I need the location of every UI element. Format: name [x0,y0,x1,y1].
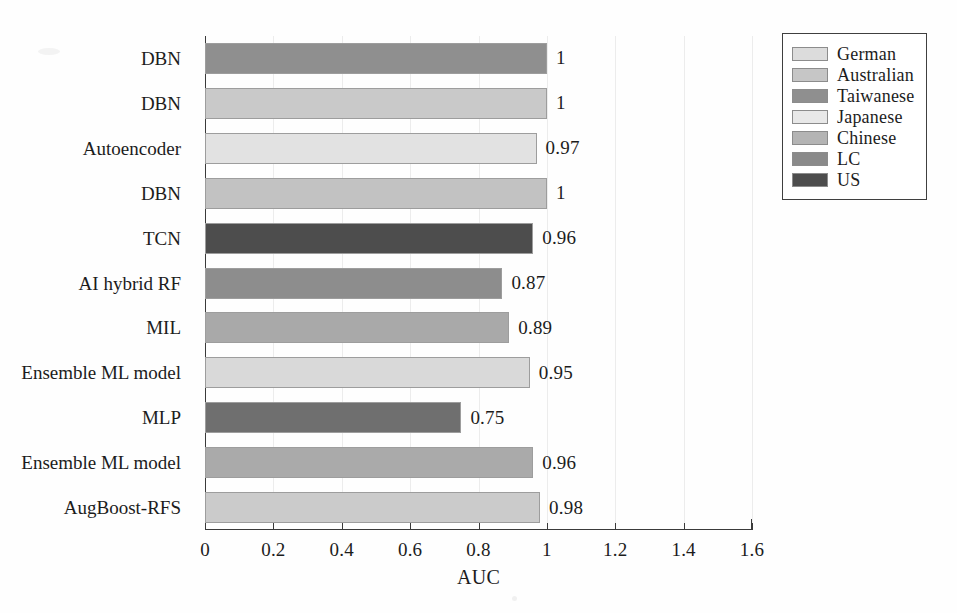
chart-figure: DBNDBNAutoencoderDBNTCNAI hybrid RFMILEn… [0,0,957,613]
bar[interactable] [205,492,540,523]
x-tick-label: 1 [542,539,552,561]
bar-row[interactable]: 0.96 [205,447,752,478]
x-tick [205,523,206,530]
legend-item[interactable]: Australian [792,64,915,85]
bar-value-label: 0.98 [549,497,583,519]
chart-legend: GermanAustralianTaiwaneseJapaneseChinese… [782,33,927,200]
bar[interactable] [205,268,502,299]
bar-row[interactable]: 0.87 [205,268,752,299]
bar-value-label: 0.89 [518,317,552,339]
y-axis-label: Autoencoder [83,133,193,164]
bar[interactable] [205,178,547,209]
bar[interactable] [205,223,533,254]
legend-item[interactable]: German [792,43,915,64]
x-tick [547,523,548,530]
legend-label: LC [837,150,860,168]
x-tick-label: 1.4 [671,539,695,561]
scan-artifact [512,596,517,601]
legend-label: Chinese [837,129,896,147]
legend-item[interactable]: Chinese [792,127,915,148]
legend-swatch [792,152,828,166]
y-axis-label: DBN [141,178,193,209]
legend-item[interactable]: US [792,169,915,190]
legend-item[interactable]: Japanese [792,106,915,127]
legend-item[interactable]: Taiwanese [792,85,915,106]
y-axis-label: MLP [142,402,193,433]
y-axis-label: MIL [146,312,193,343]
x-tick-label: 0.8 [466,539,490,561]
bar-value-label: 0.96 [542,452,576,474]
legend-swatch [792,47,828,61]
x-tick-label: 1.2 [603,539,627,561]
bar-value-label: 0.95 [539,362,573,384]
x-tick-label: 0.2 [261,539,285,561]
legend-label: Australian [837,66,914,84]
bar-row[interactable]: 1 [205,43,752,74]
plot-area: 110.9710.960.870.890.950.750.960.98 00.2… [205,36,752,530]
bar[interactable] [205,312,509,343]
x-tick-label: 0 [200,539,210,561]
bar-value-label: 1 [556,92,566,114]
legend-swatch [792,173,828,187]
bar[interactable] [205,447,533,478]
legend-swatch [792,89,828,103]
bar-row[interactable]: 0.96 [205,223,752,254]
x-tick [410,523,411,530]
bar[interactable] [205,357,530,388]
y-axis-label: Ensemble ML model [21,447,193,478]
x-tick-label: 0.6 [398,539,422,561]
x-tick [342,523,343,530]
bar-row[interactable]: 1 [205,88,752,119]
x-tick [615,523,616,530]
y-axis-label: TCN [143,223,193,254]
gridline [752,36,753,530]
x-tick [684,523,685,530]
bar-value-label: 0.96 [542,227,576,249]
y-axis-label: DBN [141,43,193,74]
y-axis-label: DBN [141,88,193,119]
bar[interactable] [205,43,547,74]
legend-label: Taiwanese [837,87,915,105]
y-axis-label: Ensemble ML model [21,357,193,388]
legend-label: Japanese [837,108,903,126]
x-tick-label: 0.4 [330,539,354,561]
legend-swatch [792,68,828,82]
bar-row[interactable]: 0.97 [205,133,752,164]
bar[interactable] [205,402,461,433]
legend-swatch [792,131,828,145]
x-tick [273,523,274,530]
bar-value-label: 1 [556,182,566,204]
bar-value-label: 0.75 [470,407,504,429]
bar-row[interactable]: 0.95 [205,357,752,388]
bar-row[interactable]: 0.89 [205,312,752,343]
bar-value-label: 0.97 [546,137,580,159]
x-tick [752,523,753,530]
y-axis-label: AugBoost-RFS [64,492,193,523]
bar-row[interactable]: 0.75 [205,402,752,433]
legend-label: German [837,45,896,63]
x-tick [479,523,480,530]
legend-swatch [792,110,828,124]
bar[interactable] [205,88,547,119]
x-axis-title: AUC [205,566,752,589]
bar-value-label: 1 [556,47,566,69]
bar[interactable] [205,133,537,164]
y-axis-category-labels: DBNDBNAutoencoderDBNTCNAI hybrid RFMILEn… [0,36,193,530]
bar-row[interactable]: 1 [205,178,752,209]
y-axis-label: AI hybrid RF [79,268,193,299]
x-tick-label: 1.6 [740,539,764,561]
legend-item[interactable]: LC [792,148,915,169]
legend-label: US [837,171,860,189]
bar-row[interactable]: 0.98 [205,492,752,523]
bar-value-label: 0.87 [511,272,545,294]
